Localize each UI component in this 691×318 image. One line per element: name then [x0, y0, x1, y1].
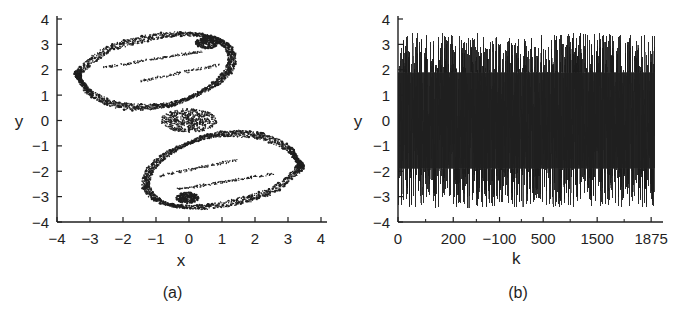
panel-a-xtick-label: 0 — [185, 230, 193, 247]
time-series-trace — [398, 33, 655, 208]
panel-a-ytick-label: 3 — [41, 36, 49, 53]
panel-b-xtick-label: 1875 — [634, 230, 667, 247]
panel-a-xtick-label: 3 — [284, 230, 292, 247]
panel-a-ytick-label: 4 — [41, 11, 49, 28]
time-series-plot: −4−3−2−1012340200−10050015001875ky — [345, 0, 691, 270]
panel-b: −4−3−2−1012340200−10050015001875ky (b) — [345, 0, 691, 318]
panel-a: −4−3−2−101234−4−3−2−101234xy (a) — [0, 0, 345, 318]
attractor-point-cloud — [73, 31, 304, 210]
panel-b-ytick-label: 1 — [382, 87, 390, 104]
panel-b-xtick-label: 0 — [394, 230, 402, 247]
panel-a-xtick-label: −3 — [81, 230, 98, 247]
panel-b-ytick-label: −1 — [373, 137, 390, 154]
panel-a-xtick-label: −4 — [48, 230, 65, 247]
panel-b-caption: (b) — [345, 284, 691, 302]
panel-a-xtick-label: 4 — [317, 230, 325, 247]
panel-b-ytick-label: 2 — [382, 61, 390, 78]
panel-a-ytick-label: −2 — [32, 163, 49, 180]
panel-b-xtick-label: −100 — [483, 230, 517, 247]
panel-a-xaxis-label: x — [177, 251, 186, 270]
panel-a-xtick-label: 1 — [218, 230, 226, 247]
panel-a-ytick-label: 2 — [41, 61, 49, 78]
panel-b-ytick-label: 0 — [382, 112, 390, 129]
panel-b-yaxis-label: y — [354, 112, 363, 131]
panel-a-ytick-label: −3 — [32, 188, 49, 205]
panel-b-xtick-label: 200 — [441, 230, 466, 247]
panel-b-ytick-label: 4 — [382, 11, 390, 28]
panel-b-ytick-label: −3 — [373, 188, 390, 205]
panel-b-xtick-label: 1500 — [580, 230, 613, 247]
panel-b-ytick-label: 3 — [382, 36, 390, 53]
panel-a-yaxis-label: y — [15, 112, 24, 131]
panel-b-ytick-label: −2 — [373, 163, 390, 180]
panel-a-xtick-label: 2 — [251, 230, 259, 247]
panel-b-ytick-label: −4 — [373, 214, 390, 231]
panel-a-ytick-label: −1 — [32, 137, 49, 154]
figure-root: −4−3−2−101234−4−3−2−101234xy (a) −4−3−2−… — [0, 0, 691, 318]
panel-b-xtick-label: 500 — [531, 230, 556, 247]
panel-a-ytick-label: 1 — [41, 87, 49, 104]
panel-a-caption: (a) — [0, 284, 345, 302]
phase-portrait-plot: −4−3−2−101234−4−3−2−101234xy — [0, 0, 345, 270]
panel-a-xtick-label: −2 — [114, 230, 131, 247]
panel-a-ytick-label: 0 — [41, 112, 49, 129]
panel-a-xtick-label: −1 — [147, 230, 164, 247]
panel-b-xaxis-label: k — [512, 249, 521, 268]
panel-a-ytick-label: −4 — [32, 214, 49, 231]
